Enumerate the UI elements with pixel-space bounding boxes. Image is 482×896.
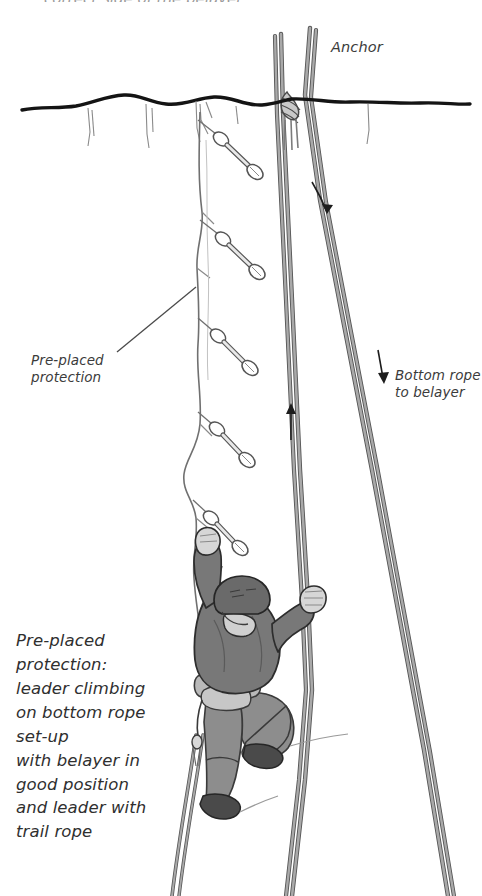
right-rope-strand-b [311,30,454,896]
rope-down-arrow-lower [378,350,389,384]
left-rope-strand [281,34,312,896]
preplaced-protection-group [193,120,268,559]
bottom-rope-label: Bottom rope to belayer [395,367,481,402]
trail-rope [172,735,203,896]
anchor-label: Anchor [331,38,383,57]
figure-caption: Pre-placed protection: leader climbing o… [16,629,146,844]
rope-direction-arrows [286,182,389,440]
climber-right-arm [272,586,326,652]
diagram-page: correct side of the belayer. [0,0,482,896]
rope-up-arrow [286,403,296,440]
rope-system [275,28,454,896]
preplaced-protection-label: Pre-placed protection [31,352,104,387]
climber-figure [172,528,348,896]
quickdraw-1 [198,120,266,183]
quickdraw-2 [200,220,268,283]
preplaced-leader-line [117,287,196,352]
cliff-top-edge [22,95,470,148]
quickdraw-4 [198,412,258,471]
